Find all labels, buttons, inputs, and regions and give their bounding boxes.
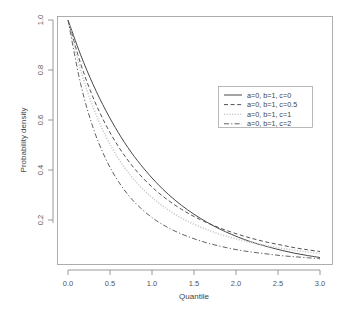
legend-label-3: a=0, b=1, c=2 <box>247 119 291 128</box>
figure-canvas: 0.00.51.01.52.02.53.0 0.20.40.60.81.0 Qu… <box>0 0 352 315</box>
legend-label-2: a=0, b=1, c=1 <box>247 110 291 119</box>
x-tick-label-2: 1.0 <box>147 279 157 288</box>
x-tick-label-5: 2.5 <box>273 279 283 288</box>
x-tick-label-0: 0.0 <box>63 279 73 288</box>
x-axis-title: Quantile <box>179 292 209 301</box>
x-tick-label-6: 3.0 <box>315 279 325 288</box>
y-tick-label-3: 0.8 <box>36 65 45 75</box>
x-tick-label-1: 0.5 <box>105 279 115 288</box>
legend-label-1: a=0, b=1, c=0.5 <box>247 100 297 109</box>
x-axis-ticks: 0.00.51.01.52.02.53.0 <box>63 270 325 288</box>
probability-density-chart: 0.00.51.01.52.02.53.0 0.20.40.60.81.0 Qu… <box>0 0 352 315</box>
y-tick-label-4: 1.0 <box>36 15 45 25</box>
y-axis-title: Probability density <box>19 108 28 173</box>
x-tick-label-3: 1.5 <box>189 279 199 288</box>
y-axis-ticks: 0.20.40.60.81.0 <box>36 15 53 225</box>
chart-legend: a=0, b=1, c=0a=0, b=1, c=0.5a=0, b=1, c=… <box>219 87 313 129</box>
curve-series-0 <box>68 20 320 258</box>
curve-group <box>68 20 320 259</box>
plot-panel-border <box>58 17 333 265</box>
x-tick-label-4: 2.0 <box>231 279 241 288</box>
y-tick-label-1: 0.4 <box>36 165 45 175</box>
legend-label-0: a=0, b=1, c=0 <box>247 91 291 100</box>
curve-series-2 <box>68 20 320 254</box>
curve-series-3 <box>68 20 320 259</box>
y-tick-label-2: 0.6 <box>36 115 45 125</box>
y-tick-label-0: 0.2 <box>36 215 45 225</box>
